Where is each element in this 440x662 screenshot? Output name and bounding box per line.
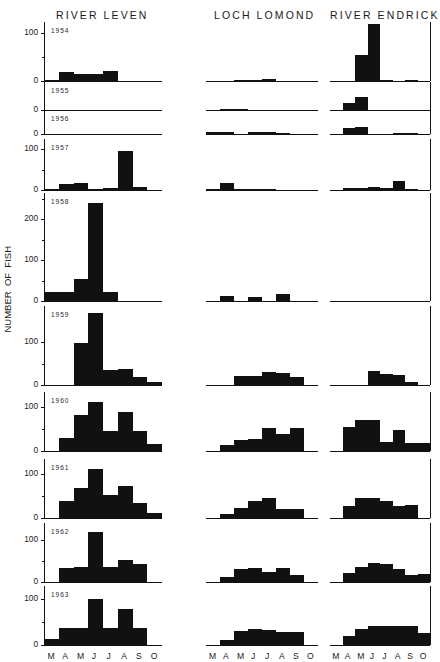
- bar: [276, 509, 290, 518]
- bar: [405, 189, 418, 190]
- bar: [343, 427, 356, 451]
- x-tick-label: A: [223, 651, 229, 661]
- bar: [380, 626, 393, 645]
- bar: [234, 631, 248, 645]
- bar: [343, 128, 356, 134]
- bar: [368, 187, 381, 190]
- panel-1956-river-endrick: [330, 110, 431, 135]
- bar: [262, 498, 276, 518]
- bar: [220, 640, 234, 645]
- bar: [276, 434, 290, 451]
- x-tick-label: O: [151, 651, 158, 661]
- bar: [355, 567, 368, 582]
- bar: [290, 428, 304, 451]
- bar: [393, 181, 406, 190]
- bar: [220, 445, 234, 451]
- bar: [133, 431, 148, 451]
- x-tick-label: S: [136, 651, 142, 661]
- bar: [88, 313, 103, 385]
- bar: [88, 402, 103, 451]
- bar: [248, 376, 262, 385]
- figure-panel-grid: RIVER LEVEN LOCH LOMOND RIVER ENDRICK NU…: [0, 0, 440, 662]
- bar: [206, 132, 220, 134]
- bar: [44, 292, 59, 301]
- panel-1955-loch-lomond: [206, 109, 318, 111]
- bar: [118, 412, 133, 451]
- y-tick-label: 200: [2, 213, 38, 223]
- y-tick-label: 100: [2, 468, 38, 478]
- bar: [88, 189, 103, 190]
- bar: [59, 292, 74, 301]
- bar: [234, 109, 248, 110]
- bar: [220, 132, 234, 134]
- bar: [147, 513, 162, 518]
- y-tick-label: 0: [2, 128, 38, 138]
- bar: [118, 609, 133, 645]
- bar: [234, 440, 248, 451]
- bar: [262, 372, 276, 385]
- panel-1961-loch-lomond: [206, 498, 318, 519]
- bar: [380, 564, 393, 582]
- panel-1962-loch-lomond: [206, 568, 318, 582]
- bar: [393, 133, 406, 134]
- bar: [118, 151, 133, 190]
- panel-1954-loch-lomond: [206, 79, 318, 82]
- bar: [405, 505, 418, 518]
- bar: [59, 184, 74, 190]
- bar: [418, 574, 431, 582]
- x-tick-label: J: [370, 651, 374, 661]
- x-tick-label: M: [357, 651, 364, 661]
- bar: [355, 629, 368, 645]
- bar: [290, 575, 304, 582]
- x-tick-label: A: [121, 651, 127, 661]
- bar: [380, 442, 393, 451]
- bar: [405, 133, 418, 134]
- bar: [290, 509, 304, 518]
- bar: [248, 629, 262, 645]
- bar: [393, 506, 406, 518]
- panel-year-label: 1960: [51, 397, 69, 404]
- x-tick-label: J: [92, 651, 96, 661]
- panel-year-label: 1962: [51, 528, 69, 535]
- bar: [74, 628, 89, 645]
- bar: [88, 203, 103, 301]
- panel-1954-river-endrick: [330, 22, 431, 82]
- bar: [418, 633, 431, 645]
- bar: [290, 377, 304, 385]
- bar: [262, 132, 276, 134]
- bar: [103, 71, 118, 81]
- bar: [220, 183, 234, 190]
- panel-1956-river-leven: [41, 110, 163, 135]
- panel-1962-river-endrick: [330, 523, 431, 583]
- y-tick-label: 100: [2, 593, 38, 603]
- panel-1959-river-endrick: [330, 306, 431, 386]
- bar: [276, 568, 290, 582]
- x-tick-label: A: [345, 651, 351, 661]
- bar: [133, 503, 148, 518]
- panel-year-label: 1956: [51, 115, 69, 122]
- bar: [133, 628, 148, 645]
- bar: [74, 488, 89, 518]
- y-tick-label: 0: [2, 639, 38, 649]
- x-tick-label: A: [62, 651, 68, 661]
- x-tick-label: A: [395, 651, 401, 661]
- x-tick-label: S: [407, 651, 413, 661]
- bar: [103, 431, 118, 451]
- y-tick-label: 0: [2, 104, 38, 114]
- bar: [355, 420, 368, 451]
- panel-1957-loch-lomond: [206, 183, 318, 191]
- bar: [220, 109, 234, 110]
- bar: [248, 568, 262, 582]
- bar: [405, 80, 418, 81]
- bar: [206, 189, 220, 190]
- bar: [343, 506, 356, 518]
- bar: [234, 569, 248, 582]
- bar: [368, 563, 381, 582]
- x-tick-label: O: [307, 651, 314, 661]
- bar: [405, 443, 418, 451]
- bar: [59, 72, 74, 81]
- panel-1961-river-endrick: [330, 459, 431, 519]
- bar: [234, 80, 248, 81]
- bar: [74, 74, 89, 81]
- y-tick-label: 100: [2, 143, 38, 153]
